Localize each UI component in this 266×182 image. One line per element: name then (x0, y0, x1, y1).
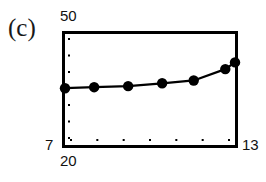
x-axis-min-label: 20 (60, 152, 77, 169)
x-tick-dot (228, 139, 230, 141)
data-point-marker (89, 82, 99, 92)
y-tick-dot (68, 104, 70, 106)
plot-area (62, 31, 238, 148)
data-point-marker (60, 83, 70, 93)
x-tick-dot (70, 139, 72, 141)
panel-label: (c) (8, 14, 36, 42)
plot-frame (64, 33, 237, 147)
x-tick-dot (149, 139, 151, 141)
y-tick-dot (68, 71, 70, 73)
y-tick-dot (68, 137, 70, 139)
y-tick-dot (68, 38, 70, 40)
x-tick-dot (202, 139, 204, 141)
data-point-marker (189, 75, 199, 85)
y-tick-dot (68, 55, 70, 57)
x-tick-dot (123, 139, 125, 141)
y-tick-dot (68, 121, 70, 123)
x-tick-dot (96, 139, 98, 141)
plot-canvas (62, 31, 238, 148)
x-axis-max-label: 13 (242, 136, 259, 153)
data-point-marker (230, 57, 240, 67)
data-point-marker (157, 78, 167, 88)
data-point-marker (123, 81, 133, 91)
y-axis-min-label: 7 (45, 136, 53, 153)
figure-panel: (c) 50 7 20 13 (0, 0, 266, 182)
data-point-marker (220, 64, 230, 74)
y-axis-max-label: 50 (60, 7, 77, 24)
x-tick-dot (175, 139, 177, 141)
